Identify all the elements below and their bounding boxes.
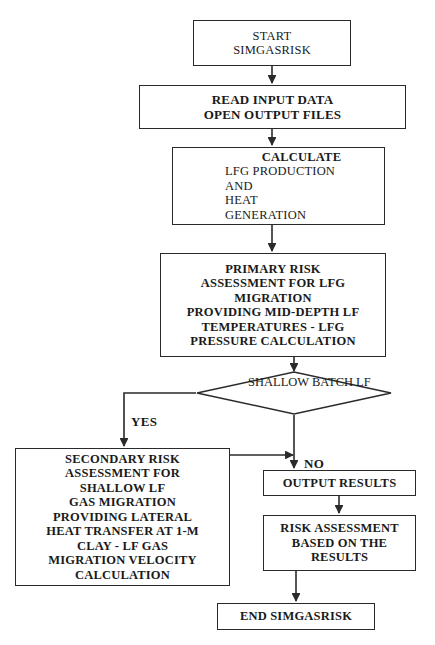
node-decision-label: SHALLOW BATCH LF (248, 375, 378, 390)
node-read-line-2: OPEN OUTPUT FILES (204, 107, 342, 122)
node-calculate-line-2: AND (225, 179, 253, 194)
node-output-results[interactable]: OUTPUT RESULTS (263, 470, 416, 496)
node-calculate-line-3: HEAT (225, 193, 258, 208)
node-read-input-data[interactable]: READ INPUT DATA OPEN OUTPUT FILES (139, 85, 406, 129)
node-start-line-1: START (253, 29, 292, 44)
node-decision-shallow-batch-lf[interactable]: SHALLOW BATCH LF (196, 371, 392, 415)
node-riskassess-line-3: RESULTS (311, 550, 368, 565)
node-primary-line-4: PROVIDING MID-DEPTH LF (187, 305, 359, 320)
node-calculate-line-4: GENERATION (225, 208, 306, 223)
edge-label-yes: YES (131, 414, 158, 430)
node-primary-line-3: MIGRATION (234, 291, 311, 306)
node-secondary-line-2: ASSESSMENT FOR (65, 466, 180, 481)
node-primary-line-5: TEMPERATURES - LFG (202, 320, 345, 335)
node-decision-line-2: BATCH LF (312, 375, 371, 389)
node-secondary-line-3: SHALLOW LF (80, 481, 165, 496)
node-primary-risk-assessment[interactable]: PRIMARY RISK ASSESSMENT FOR LFG MIGRATIO… (160, 253, 386, 357)
node-secondary-line-7: CLAY - LF GAS (77, 539, 168, 554)
node-read-line-1: READ INPUT DATA (212, 92, 333, 107)
node-calculate-line-1: LFG PRODUCTION (225, 164, 335, 179)
flowchart-canvas: START SIMGASRISK READ INPUT DATA OPEN OU… (0, 0, 435, 645)
node-secondary-line-6: HEAT TRANSFER AT 1-M (46, 524, 199, 539)
node-riskassess-line-2: BASED ON THE (292, 536, 387, 551)
node-decision-line-1: SHALLOW (248, 375, 309, 389)
node-start-line-2: SIMGASRISK (233, 43, 311, 58)
node-primary-line-1: PRIMARY RISK (225, 262, 321, 277)
node-risk-assessment-results[interactable]: RISK ASSESSMENT BASED ON THE RESULTS (263, 515, 416, 571)
node-primary-line-6: PRESSURE CALCULATION (190, 334, 355, 349)
node-start[interactable]: START SIMGASRISK (193, 20, 351, 66)
node-secondary-line-5: PROVIDING LATERAL (53, 510, 192, 525)
node-secondary-risk-assessment[interactable]: SECONDARY RISK ASSESSMENT FOR SHALLOW LF… (15, 448, 230, 586)
node-secondary-line-9: CALCULATION (75, 568, 170, 583)
node-end[interactable]: END SIMGASRISK (217, 603, 375, 630)
node-primary-line-2: ASSESSMENT FOR LFG (201, 276, 345, 291)
node-output-line-1: OUTPUT RESULTS (283, 476, 397, 491)
node-secondary-line-4: GAS MIGRATION (69, 495, 176, 510)
node-riskassess-line-1: RISK ASSESSMENT (280, 521, 399, 536)
node-calculate[interactable]: CALCULATE LFG PRODUCTION AND HEAT GENERA… (172, 147, 385, 225)
node-calculate-header: CALCULATE (262, 150, 341, 165)
node-secondary-line-1: SECONDARY RISK (65, 452, 180, 467)
node-end-line-1: END SIMGASRISK (240, 609, 352, 624)
node-secondary-line-8: MIGRATION VELOCITY (48, 553, 197, 568)
